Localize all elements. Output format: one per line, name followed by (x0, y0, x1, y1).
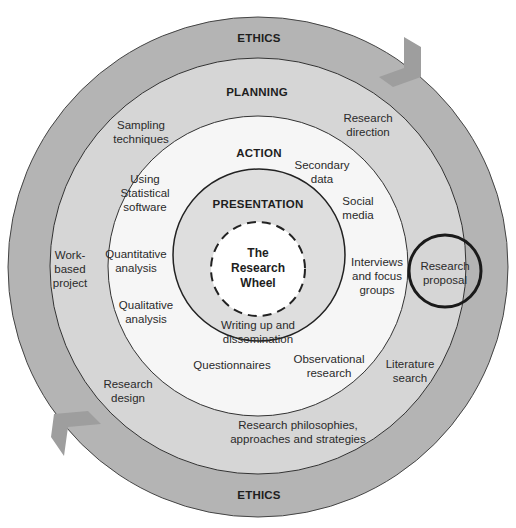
action-item-questionnaires: Questionnaires (193, 358, 270, 372)
action-item-secondary-data: Secondary data (295, 158, 350, 186)
planning-item-research-philosophies: Research philosophies, approaches and st… (230, 418, 366, 446)
ethics-label-top: ETHICS (237, 32, 280, 44)
presentation-label: PRESENTATION (213, 198, 304, 210)
planning-item-research-direction: Research direction (343, 111, 392, 139)
action-label: ACTION (236, 147, 281, 159)
action-item-interviews-focus-groups: Interviews and focus groups (351, 255, 403, 297)
action-item-observational-research: Observational research (294, 352, 365, 380)
planning-item-work-based-project: Work- based project (53, 248, 88, 290)
planning-label: PLANNING (226, 86, 288, 98)
planning-item-literature-search: Literature search (386, 357, 435, 385)
center-title: The Research Wheel (231, 246, 285, 291)
presentation-item-writing-up: Writing up and dissemination (221, 318, 295, 346)
action-item-quantitative-analysis: Quantitative analysis (105, 247, 166, 275)
planning-item-sampling-techniques: Sampling techniques (113, 118, 169, 146)
action-item-qualitative-analysis: Qualitative analysis (119, 298, 173, 326)
action-item-statistical-software: Using Statistical software (120, 172, 169, 214)
ethics-label-bottom: ETHICS (237, 489, 280, 501)
planning-item-research-design: Research design (103, 377, 152, 405)
planning-item-research-proposal: Research proposal (420, 259, 469, 287)
action-item-social-media: Social media (342, 194, 373, 222)
